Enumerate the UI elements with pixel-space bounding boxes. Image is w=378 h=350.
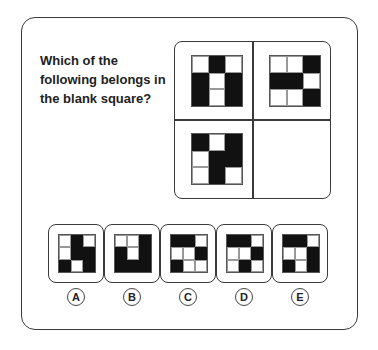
filled-square (287, 73, 304, 90)
filled-square (139, 235, 151, 247)
filled-square (283, 260, 295, 272)
empty-square (192, 56, 209, 73)
filled-square (239, 260, 251, 272)
empty-square (251, 235, 263, 247)
empty-square (183, 247, 195, 259)
puzzle-cell-blank (253, 120, 331, 198)
filled-square (303, 89, 320, 106)
filled-square (171, 235, 183, 247)
empty-square (283, 247, 295, 259)
divider (175, 119, 330, 121)
filled-square (171, 260, 183, 272)
option-d-label[interactable]: D (235, 288, 253, 306)
empty-square (251, 260, 263, 272)
question-text: Which of the following belongs in the bl… (40, 51, 170, 108)
pattern-grid (191, 55, 243, 107)
option-labels: A B C D E (48, 288, 328, 306)
empty-square (59, 235, 71, 247)
filled-square (192, 89, 209, 106)
filled-square (225, 151, 242, 168)
empty-square (127, 247, 139, 259)
pattern-grid (191, 133, 243, 185)
filled-square (139, 247, 151, 259)
filled-square (183, 235, 195, 247)
filled-square (195, 247, 207, 259)
empty-square (209, 134, 226, 151)
empty-square (127, 235, 139, 247)
filled-square (239, 235, 251, 247)
filled-square (209, 151, 226, 168)
filled-square (209, 56, 226, 73)
filled-square (59, 260, 71, 272)
filled-square (209, 167, 226, 184)
empty-square (227, 247, 239, 259)
option-d-tile[interactable] (216, 224, 272, 283)
filled-square (227, 235, 239, 247)
empty-square (115, 235, 127, 247)
option-b-tile[interactable] (104, 224, 160, 283)
empty-square (225, 167, 242, 184)
filled-square (127, 260, 139, 272)
filled-square (192, 73, 209, 90)
filled-square (139, 260, 151, 272)
pattern-grid (114, 234, 152, 273)
filled-square (283, 235, 295, 247)
empty-square (171, 247, 183, 259)
answer-options (48, 224, 328, 283)
empty-square (209, 89, 226, 106)
filled-square (71, 235, 83, 247)
empty-square (225, 56, 242, 73)
option-b-label[interactable]: B (123, 288, 141, 306)
empty-square (270, 89, 287, 106)
pattern-grid (269, 55, 321, 107)
filled-square (307, 247, 319, 259)
empty-square (192, 167, 209, 184)
empty-square (195, 260, 207, 272)
filled-square (225, 89, 242, 106)
filled-square (192, 134, 209, 151)
filled-square (307, 260, 319, 272)
puzzle-matrix (174, 41, 331, 199)
puzzle-cell-bottom-left (175, 120, 253, 198)
filled-square (251, 247, 263, 259)
puzzle-cell-top-left (175, 42, 253, 120)
empty-square (287, 89, 304, 106)
puzzle-cell-top-right (253, 42, 331, 120)
filled-square (303, 56, 320, 73)
filled-square (83, 260, 95, 272)
filled-square (71, 247, 83, 259)
filled-square (295, 235, 307, 247)
option-a-tile[interactable] (48, 224, 104, 283)
option-e-tile[interactable] (272, 224, 328, 283)
option-c-label[interactable]: C (179, 288, 197, 306)
filled-square (115, 247, 127, 259)
empty-square (71, 260, 83, 272)
filled-square (115, 260, 127, 272)
pattern-grid (282, 234, 320, 273)
empty-square (83, 235, 95, 247)
empty-square (239, 247, 251, 259)
pattern-grid (58, 234, 96, 273)
empty-square (307, 235, 319, 247)
empty-square (303, 73, 320, 90)
option-a-label[interactable]: A (67, 288, 85, 306)
option-e-label[interactable]: E (291, 288, 309, 306)
empty-square (270, 56, 287, 73)
empty-square (209, 73, 226, 90)
empty-square (192, 151, 209, 168)
filled-square (270, 73, 287, 90)
empty-square (183, 260, 195, 272)
option-c-tile[interactable] (160, 224, 216, 283)
pattern-grid (170, 234, 208, 273)
empty-square (295, 260, 307, 272)
pattern-grid (226, 234, 264, 273)
empty-square (227, 260, 239, 272)
filled-square (225, 134, 242, 151)
empty-square (295, 247, 307, 259)
empty-square (59, 247, 71, 259)
filled-square (83, 247, 95, 259)
empty-square (287, 56, 304, 73)
empty-square (195, 235, 207, 247)
filled-square (225, 73, 242, 90)
